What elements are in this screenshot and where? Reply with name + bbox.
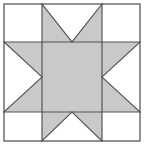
patch-corner-top-right <box>102 4 140 42</box>
patch-corner-bottom-left <box>4 112 42 141</box>
patch-corner-bottom-right <box>102 112 140 141</box>
quilt-block-figure <box>0 0 146 151</box>
patch-corner-top-left <box>4 4 42 42</box>
quilt-block-canvas <box>0 0 146 151</box>
patch-center-square <box>42 42 102 112</box>
